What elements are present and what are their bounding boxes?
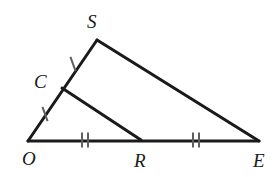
vertex-label-c: C [34, 71, 47, 92]
geometry-canvas: S C O R E [0, 0, 276, 177]
vertex-label-s: S [87, 11, 97, 32]
geometry-figure: S C O R E [0, 0, 276, 177]
tick-mark [70, 57, 75, 71]
vertex-label-e: E [252, 150, 265, 171]
segment-cr [62, 88, 141, 140]
vertex-label-o: O [22, 148, 36, 169]
tick-mark-group-cs [70, 57, 75, 71]
vertex-label-r: R [133, 150, 146, 171]
